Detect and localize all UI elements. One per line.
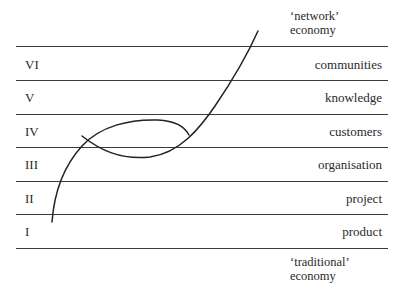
evolution-curve — [0, 0, 403, 298]
economy-evolution-diagram: ‘network’ economy VI communities V knowl… — [0, 0, 403, 298]
curve-stroke-lower — [52, 120, 189, 222]
curve-stroke-upper — [82, 31, 258, 158]
